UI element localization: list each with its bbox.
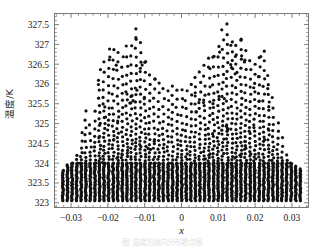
y-tick-label: 325.5 bbox=[28, 99, 50, 109]
y-tick-label: 324.5 bbox=[28, 139, 50, 149]
y-tick-label: 327 bbox=[35, 40, 50, 50]
x-tick-label: −0.02 bbox=[97, 213, 119, 223]
plot-canvas: −0.03−0.02−0.0100.010.020.03 323323.5324… bbox=[0, 0, 324, 251]
figure-caption: 图 温度沿轴向分布散点图 bbox=[0, 236, 324, 247]
y-tick-label: 323.5 bbox=[28, 178, 50, 188]
y-tick-label: 324 bbox=[35, 159, 50, 169]
y-tick-label: 323 bbox=[35, 198, 50, 208]
x-tick-label: 0.01 bbox=[210, 213, 227, 223]
x-tick-label: −0.01 bbox=[134, 213, 156, 223]
y-tick-label: 326.5 bbox=[28, 60, 50, 70]
x-axis-label: x bbox=[178, 225, 184, 236]
scatter-plot-figure: −0.03−0.02−0.0100.010.020.03 323323.5324… bbox=[0, 0, 324, 251]
x-tick-label: 0.03 bbox=[284, 213, 301, 223]
y-tick-label: 327.5 bbox=[28, 20, 50, 30]
scatter-points bbox=[61, 22, 302, 202]
x-tick-labels: −0.03−0.02−0.0100.010.020.03 bbox=[60, 213, 300, 223]
y-tick-label: 325 bbox=[35, 119, 50, 129]
x-tick-label: −0.03 bbox=[60, 213, 82, 223]
x-tick-label: 0 bbox=[179, 213, 184, 223]
y-tick-label: 326 bbox=[35, 79, 50, 89]
x-axis-label-text: x bbox=[178, 225, 184, 236]
x-tick-label: 0.02 bbox=[247, 213, 264, 223]
y-tick-labels: 323323.5324324.5325325.5326326.5327327.5 bbox=[28, 20, 50, 208]
